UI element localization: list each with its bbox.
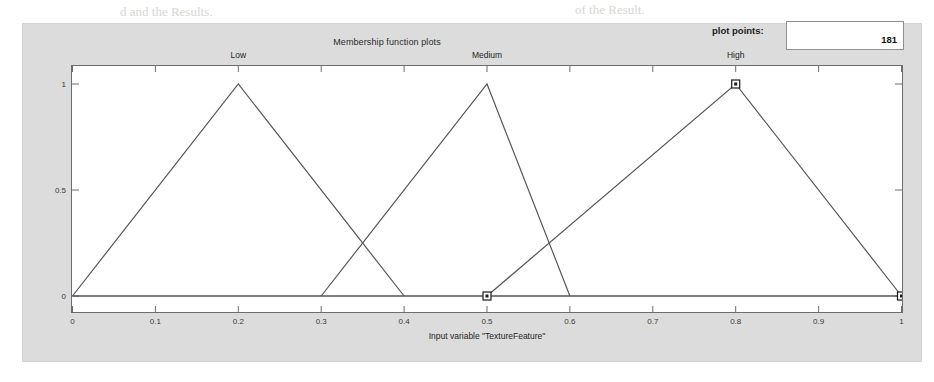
bleed-text: of the Result. bbox=[575, 2, 645, 18]
mf-label-medium: Medium bbox=[472, 50, 502, 60]
y-tick-label: 0.5 bbox=[44, 186, 66, 195]
y-tick-label: 1 bbox=[44, 80, 66, 89]
mf-curve-high bbox=[487, 84, 902, 296]
selection-handle bbox=[483, 292, 491, 300]
x-tick-label: 0.4 bbox=[399, 317, 410, 326]
x-axis-label: Input variable "TextureFeature" bbox=[71, 331, 903, 341]
membership-function-plot bbox=[72, 66, 902, 312]
selection-handle bbox=[898, 292, 903, 300]
x-tick-label: 0.7 bbox=[647, 317, 658, 326]
x-tick-label: 0.5 bbox=[481, 317, 492, 326]
plot-points-value: 181 bbox=[881, 34, 897, 45]
bleed-text: d and the Results. bbox=[120, 4, 212, 20]
x-tick-label: 0.1 bbox=[150, 317, 161, 326]
plot-points-input[interactable]: 181 bbox=[786, 21, 904, 50]
plot-points-label: plot points: bbox=[712, 25, 764, 36]
x-tick-label: 0.6 bbox=[564, 317, 575, 326]
selection-handle bbox=[732, 80, 740, 88]
x-tick-label: 1 bbox=[899, 317, 903, 326]
x-tick-label: 0.2 bbox=[233, 317, 244, 326]
plot-area[interactable] bbox=[71, 65, 903, 313]
plot-title: Membership function plots bbox=[22, 37, 752, 47]
mf-label-low: Low bbox=[231, 50, 247, 60]
x-tick-label: 0 bbox=[70, 317, 74, 326]
membership-function-panel: Membership function plots plot points: 1… bbox=[22, 23, 922, 362]
y-tick-label: 0 bbox=[44, 292, 66, 301]
mf-curve-medium bbox=[321, 84, 570, 296]
x-tick-label: 0.3 bbox=[316, 317, 327, 326]
x-tick-label: 0.8 bbox=[730, 317, 741, 326]
x-tick-label: 0.9 bbox=[813, 317, 824, 326]
mf-curve-low bbox=[73, 84, 405, 296]
mf-label-high: High bbox=[727, 50, 744, 60]
